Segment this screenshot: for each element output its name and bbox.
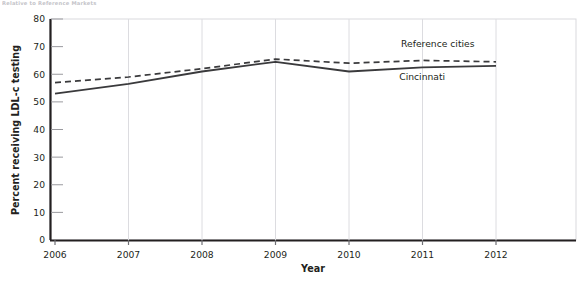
- y-tick-label: 40: [33, 124, 45, 135]
- x-tick-label: 2009: [264, 249, 288, 260]
- x-axis-tick-labels: 2006200720082009201020112012: [43, 249, 507, 260]
- x-tick-label: 2010: [337, 249, 361, 260]
- y-tick-label: 60: [33, 69, 45, 80]
- y-tick-label: 0: [39, 234, 45, 245]
- series-label-cincinnati: Cincinnati: [399, 71, 445, 82]
- y-tick-label: 20: [33, 179, 45, 190]
- y-tick-label: 10: [33, 207, 45, 218]
- x-tick-label: 2011: [411, 249, 434, 260]
- y-axis-tick-labels: 80706050403020100: [33, 13, 45, 245]
- y-tick-label: 30: [33, 152, 45, 163]
- line-chart: 80706050403020100 2006200720082009201020…: [0, 0, 588, 283]
- x-axis-title: Year: [300, 263, 325, 274]
- figure-caption: Relative to Reference Markets: [2, 0, 96, 6]
- y-axis-title: Percent receiving LDL-c testing: [10, 45, 21, 215]
- x-tick-label: 2012: [484, 249, 507, 260]
- figure-container: Relative to Reference Markets 8070605040…: [0, 0, 588, 283]
- y-tick-label: 70: [33, 41, 45, 52]
- series-label-reference-cities: Reference cities: [401, 38, 475, 49]
- y-tick-label: 80: [33, 13, 45, 24]
- x-tick-label: 2008: [190, 249, 214, 260]
- x-tick-label: 2006: [43, 249, 67, 260]
- x-tick-label: 2007: [117, 249, 141, 260]
- y-tick-label: 50: [33, 96, 45, 107]
